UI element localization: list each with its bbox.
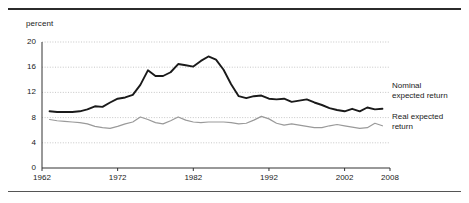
x-tick-label-2008: 2008 — [370, 173, 410, 182]
y-tick-label-16: 16 — [14, 62, 36, 71]
y-tick-label-12: 12 — [14, 87, 36, 96]
figure-root: percent 048121620 1962197219821992200220… — [0, 0, 469, 203]
y-tick-label-20: 20 — [14, 37, 36, 46]
x-tick-label-1962: 1962 — [22, 173, 62, 182]
legend-real-line1: Real expected — [392, 112, 469, 122]
legend-nominal-expected-return: Nominal expected return — [392, 81, 469, 101]
legend-real-expected-return: Real expected return — [392, 112, 469, 132]
legend-nominal-line2: expected return — [392, 91, 469, 101]
x-tick-label-1992: 1992 — [249, 173, 289, 182]
y-tick-label-4: 4 — [14, 138, 36, 147]
y-tick-label-8: 8 — [14, 113, 36, 122]
y-tick-label-0: 0 — [14, 163, 36, 172]
legend-nominal-line1: Nominal — [392, 81, 469, 91]
x-tick-label-2002: 2002 — [325, 173, 365, 182]
x-tick-label-1982: 1982 — [173, 173, 213, 182]
x-tick-label-1972: 1972 — [98, 173, 138, 182]
legend-real-line2: return — [392, 122, 469, 132]
